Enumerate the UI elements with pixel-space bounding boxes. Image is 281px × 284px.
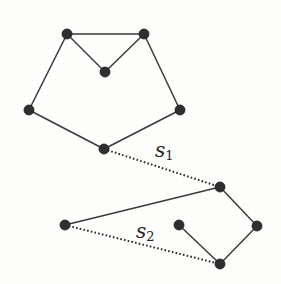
node-i	[174, 220, 184, 230]
edge-b-e	[144, 34, 180, 110]
node-h	[252, 221, 262, 231]
node-e	[175, 105, 185, 115]
node-b	[139, 29, 149, 39]
edge-d-f	[29, 110, 104, 149]
node-c	[100, 67, 110, 77]
edge-h-j	[220, 226, 257, 264]
label-subscript: 2	[146, 229, 154, 244]
segment-label-s2: s2	[136, 221, 155, 243]
label-base: s	[136, 219, 146, 243]
edge-i-j	[179, 225, 220, 264]
node-a	[62, 29, 72, 39]
edge-b-c	[105, 34, 144, 72]
node-f	[99, 144, 109, 154]
node-k	[60, 220, 70, 230]
node-g	[215, 182, 225, 192]
node-d	[24, 105, 34, 115]
label-base: s	[155, 138, 165, 162]
edge-a-c	[67, 34, 105, 72]
node-j	[215, 259, 225, 269]
graph-diagram: s1 s2	[0, 0, 281, 284]
segment-label-s1: s1	[155, 140, 174, 162]
label-subscript: 1	[165, 148, 173, 163]
edge-a-d	[29, 34, 67, 110]
edge-g-h	[220, 187, 257, 226]
